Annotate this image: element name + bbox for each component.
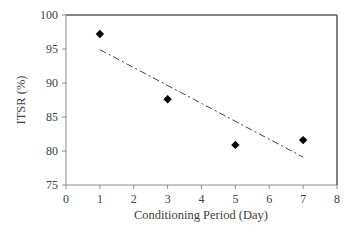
y-axis-title: ITSR (%) <box>14 76 28 125</box>
data-points <box>96 30 308 149</box>
y-tick-label: 100 <box>40 8 58 22</box>
x-tick-label: 7 <box>300 192 306 206</box>
x-tick-label: 4 <box>199 192 205 206</box>
data-point-diamond <box>299 136 307 144</box>
x-tick-label: 0 <box>63 192 69 206</box>
data-point-diamond <box>96 30 104 38</box>
x-axis-title: Conditioning Period (Day) <box>134 208 268 222</box>
data-point-diamond <box>231 141 239 149</box>
y-tick-label: 90 <box>46 76 58 90</box>
itsr-chart: 7580859095100 012345678 Conditioning Per… <box>0 0 359 235</box>
trend-line <box>100 50 303 157</box>
x-axis: 012345678 <box>63 185 340 206</box>
x-tick-label: 8 <box>334 192 340 206</box>
y-tick-label: 85 <box>46 110 58 124</box>
x-tick-label: 5 <box>232 192 238 206</box>
x-tick-label: 6 <box>266 192 272 206</box>
plot-area <box>66 15 337 185</box>
y-tick-label: 75 <box>46 178 58 192</box>
y-axis: 7580859095100 <box>40 8 66 192</box>
x-tick-label: 2 <box>131 192 137 206</box>
x-tick-label: 3 <box>165 192 171 206</box>
x-tick-label: 1 <box>97 192 103 206</box>
plot-border <box>66 15 337 185</box>
data-point-diamond <box>163 95 171 103</box>
y-tick-label: 80 <box>46 144 58 158</box>
y-tick-label: 95 <box>46 42 58 56</box>
